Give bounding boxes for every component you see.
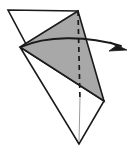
origami-diagram-svg (0, 0, 132, 149)
origami-figure (0, 0, 132, 149)
